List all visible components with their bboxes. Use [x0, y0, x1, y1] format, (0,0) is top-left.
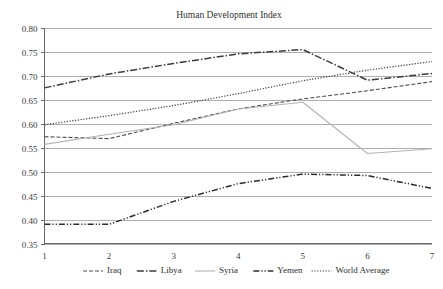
chart-background	[0, 0, 443, 289]
legend-label-syria: Syria	[219, 265, 238, 275]
x-axis-tick-label: 3	[171, 251, 176, 261]
x-axis-tick-label: 4	[236, 251, 241, 261]
legend-label-yemen: Yemen	[277, 265, 303, 275]
y-axis-tick-label: 0.55	[22, 144, 38, 154]
y-axis-tick-label: 0.50	[22, 168, 38, 178]
x-axis-tick-label: 2	[107, 251, 112, 261]
chart-container: Human Development Index 0.350.400.450.50…	[0, 0, 443, 289]
y-axis-tick-label: 0.65	[22, 96, 38, 106]
y-axis-tick-label: 0.45	[22, 192, 38, 202]
legend-label-world-average: World Average	[336, 265, 390, 275]
y-axis-tick-label: 0.35	[22, 240, 38, 250]
hdi-line-chart: Human Development Index 0.350.400.450.50…	[0, 0, 443, 289]
x-axis-tick-label: 1	[42, 251, 47, 261]
y-axis-tick-label: 0.80	[22, 24, 38, 34]
y-axis-tick-label: 0.60	[22, 120, 38, 130]
y-axis-tick-label: 0.40	[22, 216, 38, 226]
legend-label-iraq: Iraq	[107, 265, 122, 275]
y-axis-tick-label: 0.75	[22, 48, 38, 58]
y-axis-tick-label: 0.70	[22, 72, 38, 82]
x-axis-tick-label: 7	[430, 251, 435, 261]
legend-label-libya: Libya	[161, 265, 182, 275]
chart-title: Human Development Index	[176, 10, 282, 20]
x-axis-tick-label: 5	[301, 251, 306, 261]
x-axis-tick-label: 6	[365, 251, 370, 261]
